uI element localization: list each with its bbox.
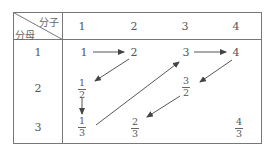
denominator: 3 — [236, 129, 242, 139]
column-header-1: 1 — [79, 21, 86, 32]
corner-label-numerator: 分子 — [39, 14, 59, 29]
cell-1-over-1: 1 — [81, 47, 88, 58]
row-header-3: 3 — [35, 122, 42, 133]
cell-2-over-3: 2 3 — [131, 117, 139, 139]
denominator: 3 — [79, 128, 85, 138]
column-header-4: 4 — [233, 21, 240, 32]
rational-enumeration-diagram: 分子 分母 1 2 3 4 1 2 3 1 2 3 4 1 2 3 2 1 3 … — [0, 0, 273, 150]
arrow-three-halves-to-two-thirds — [147, 96, 180, 117]
cell-3-over-2: 3 2 — [182, 76, 190, 98]
denominator: 3 — [132, 129, 138, 139]
numerator: 1 — [79, 116, 85, 126]
denominator: 2 — [183, 88, 189, 98]
cell-1-over-2: 1 2 — [78, 78, 86, 100]
cell-3-over-1: 3 — [183, 47, 190, 58]
cell-4-over-3: 4 3 — [235, 117, 243, 139]
arrow-2-to-half — [95, 59, 129, 81]
column-header-2: 2 — [131, 21, 138, 32]
column-header-3: 3 — [182, 21, 189, 32]
row-header-1: 1 — [35, 47, 42, 58]
numerator: 3 — [183, 76, 189, 86]
numerator: 2 — [132, 117, 138, 127]
corner-label-denominator: 分母 — [15, 27, 35, 42]
cell-1-over-3: 1 3 — [78, 116, 86, 138]
row-header-2: 2 — [35, 83, 42, 94]
cell-4-over-1: 4 — [233, 47, 240, 58]
numerator: 4 — [236, 117, 242, 127]
numerator: 1 — [79, 78, 85, 88]
arrow-4-to-three-halves — [200, 60, 232, 82]
denominator: 2 — [79, 90, 85, 100]
cell-2-over-1: 2 — [131, 47, 138, 58]
